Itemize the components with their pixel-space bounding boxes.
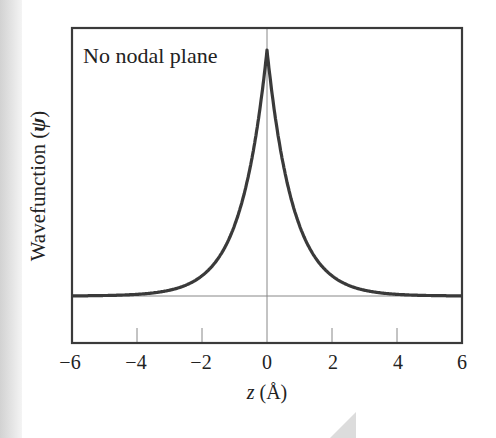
x-tick-label: 6	[457, 351, 467, 374]
x-tick-label: −4	[125, 351, 146, 374]
x-tick-label: −2	[190, 351, 211, 374]
y-axis-label: Wavefunction (ψ)	[26, 111, 51, 262]
x-axis-variable: z	[247, 381, 255, 403]
psi-symbol: ψ	[26, 118, 50, 132]
x-axis-unit: (Å)	[255, 381, 288, 403]
x-tick-label: 4	[393, 351, 403, 374]
x-tick-label: 0	[262, 351, 272, 374]
chart-title: No nodal plane	[83, 43, 217, 69]
y-axis-label-text: Wavefunction (	[26, 132, 50, 262]
x-axis-label: z (Å)	[247, 381, 288, 404]
x-tick-label: 2	[328, 351, 338, 374]
y-axis-label-close: )	[26, 111, 50, 118]
x-tick-label: −6	[59, 351, 80, 374]
